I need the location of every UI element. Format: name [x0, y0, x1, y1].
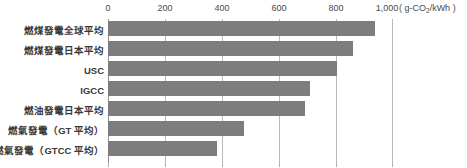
tickmark-200 — [165, 162, 166, 167]
bar-chart: 0 200 400 600 800 1,000 ( g-CO2/kWh ) 燃煤… — [0, 0, 467, 168]
tickmark-600 — [279, 162, 280, 167]
bar-1 — [108, 41, 353, 56]
x-tick-label-1000: 1,000 — [376, 3, 399, 14]
x-axis-tick-labels: 0 200 400 600 800 1,000 ( g-CO2/kWh ) — [0, 0, 467, 19]
gridline-1000 — [392, 19, 393, 162]
bar-6 — [108, 141, 217, 156]
x-tick-label-800: 800 — [328, 3, 343, 14]
x-axis-unit-label: ( g-CO2/kWh ) — [399, 3, 456, 14]
bar-4 — [108, 101, 305, 116]
x-tick-label-0: 0 — [105, 3, 110, 14]
category-label-0: 燃煤發電全球平均 — [24, 25, 104, 36]
category-label-2: USC — [84, 65, 104, 76]
bar-0 — [108, 21, 375, 36]
x-axis-tickmarks — [108, 162, 408, 168]
tickmark-1000 — [392, 162, 393, 167]
category-label-3: IGCC — [80, 85, 104, 96]
category-label-5: 燃氣發電（GT 平均） — [8, 125, 104, 136]
x-tick-label-600: 600 — [271, 3, 286, 14]
category-label-column: 燃煤發電全球平均 燃煤發電日本平均 USC IGCC 燃油發電日本平均 燃氣發電… — [0, 19, 104, 162]
bar-5 — [108, 121, 244, 136]
tickmark-0 — [108, 162, 109, 167]
x-tick-label-200: 200 — [157, 3, 172, 14]
category-label-6: 燃氣發電（GTCC 平均） — [0, 145, 104, 156]
bar-2 — [108, 61, 337, 76]
x-tick-label-400: 400 — [214, 3, 229, 14]
tickmark-800 — [336, 162, 337, 167]
bar-3 — [108, 81, 310, 96]
tickmark-400 — [222, 162, 223, 167]
plot-area — [108, 19, 408, 162]
category-label-4: 燃油發電日本平均 — [24, 105, 104, 116]
category-label-1: 燃煤發電日本平均 — [24, 45, 104, 56]
